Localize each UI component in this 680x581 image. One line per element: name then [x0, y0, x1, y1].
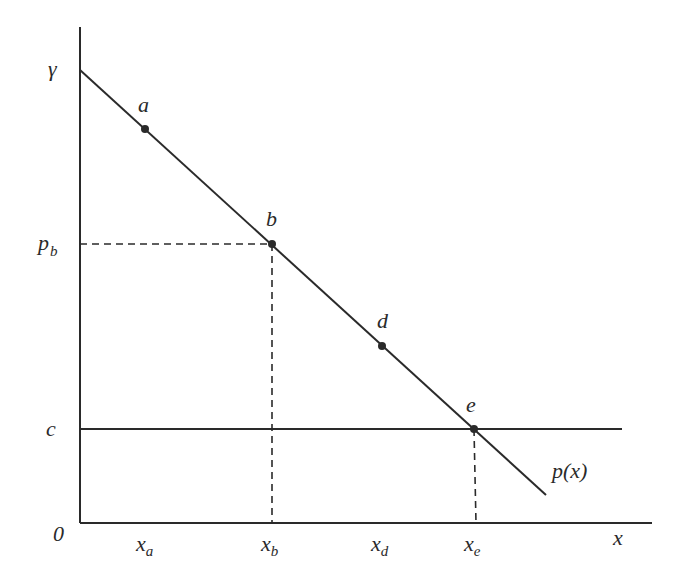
x-label-xd: xd	[370, 531, 389, 559]
label-a: a	[138, 92, 149, 117]
curve-label: p(x)	[550, 458, 587, 483]
y-label-c: c	[46, 416, 56, 441]
y-label-p: pb	[36, 230, 58, 259]
x-axis-label: x	[612, 525, 623, 550]
x-label-xe: xe	[463, 531, 481, 559]
y-label-gamma: γ	[48, 56, 58, 81]
point-b	[268, 240, 276, 248]
diagram-canvas: a b d e p(x) γ pb c 0 xa xb xd xe x	[0, 0, 680, 581]
origin-label: 0	[53, 521, 64, 546]
x-label-xb: xb	[260, 531, 279, 559]
xe-guide	[474, 429, 476, 523]
x-label-xa: xa	[135, 531, 153, 559]
label-e: e	[466, 392, 476, 417]
label-b: b	[266, 206, 277, 231]
label-d: d	[377, 308, 389, 333]
point-d	[378, 342, 386, 350]
point-a	[141, 125, 149, 133]
point-e	[470, 425, 478, 433]
